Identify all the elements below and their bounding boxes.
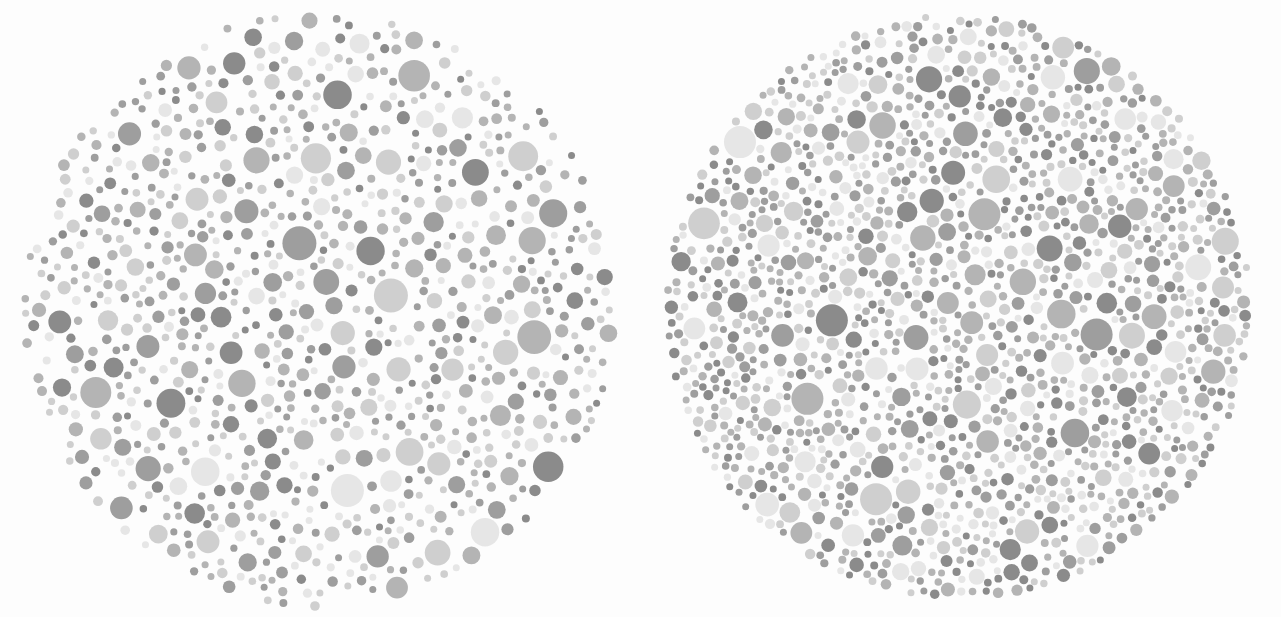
plate-dot [1103, 373, 1111, 381]
plate-dot [804, 169, 811, 176]
plate-dot [1137, 501, 1144, 508]
plate-dot [720, 326, 727, 333]
plate-dot [892, 476, 899, 483]
plate-dot [816, 304, 848, 336]
plate-dot [815, 176, 822, 183]
plate-dot [1188, 366, 1196, 374]
plate-dot [790, 522, 812, 544]
plate-dot [1005, 388, 1016, 399]
plate-dot [1006, 528, 1013, 535]
plate-dot [1225, 374, 1238, 387]
plate-dot [822, 499, 830, 507]
plate-dot [778, 462, 789, 473]
plate-dot [770, 486, 777, 493]
plate-dot [1198, 307, 1205, 314]
plate-dot [829, 282, 836, 289]
plate-dot [1041, 42, 1049, 50]
plate-dot [955, 366, 962, 373]
plate-dot [968, 420, 980, 432]
plate-dot [1009, 516, 1016, 523]
plate-dot [986, 25, 997, 36]
plate-dot [909, 43, 919, 53]
plate-dot [1200, 413, 1207, 420]
plate-dot [726, 158, 733, 165]
plate-dot [751, 294, 759, 302]
plate-dot [925, 101, 935, 111]
plate-dot [1122, 434, 1137, 449]
plate-dot [948, 113, 956, 121]
plate-dot [848, 212, 855, 219]
plate-dot [1190, 225, 1197, 232]
plate-dot [783, 405, 791, 413]
plate-dot [971, 246, 979, 254]
plate-dot [761, 198, 768, 205]
plate-dot [805, 327, 812, 334]
plate-dot [1156, 398, 1163, 405]
plate-dot [913, 22, 922, 31]
plate-dot [1186, 299, 1194, 307]
plate-dot [1149, 394, 1156, 401]
plate-dot [1101, 109, 1108, 116]
plate-dot [754, 121, 773, 140]
plate-dot [1008, 147, 1017, 156]
plate-dot [1092, 385, 1105, 398]
plate-dot [955, 311, 962, 318]
plate-dot [906, 410, 913, 417]
plate-dot [1060, 207, 1069, 216]
plate-dot [1020, 422, 1029, 431]
plate-dot [1090, 351, 1097, 358]
plate-dot [927, 215, 940, 228]
plate-dot [774, 218, 781, 225]
plate-dot [931, 309, 938, 316]
plate-dot [720, 398, 727, 405]
plate-dot [875, 140, 883, 148]
plate-dot [964, 287, 972, 295]
plate-dot [1156, 329, 1168, 341]
plate-dot [1195, 297, 1204, 306]
plate-dot [854, 243, 861, 250]
plate-dot [1076, 535, 1098, 557]
plate-dot [710, 336, 723, 349]
plate-dot [1183, 146, 1193, 156]
plate-dot [1197, 282, 1207, 292]
plate-dot [1037, 236, 1063, 262]
plate-dot [829, 265, 836, 272]
plate-dot [1135, 258, 1142, 265]
plate-dot [1008, 65, 1016, 73]
plate-dot [962, 452, 971, 461]
plate-dot [1239, 310, 1251, 322]
plate-dot [854, 287, 865, 298]
plate-dot [848, 154, 855, 161]
plate-dot [1112, 440, 1121, 449]
plate-dot [1073, 279, 1083, 289]
plate-dot [1000, 539, 1021, 560]
plate-dot [1204, 239, 1211, 246]
plate-dot [717, 246, 724, 253]
plate-dot [988, 43, 995, 50]
plate-dot [962, 152, 969, 159]
plate-dot [906, 130, 913, 137]
plate-dot [1137, 112, 1148, 123]
plate-dot [821, 263, 828, 270]
plate-dot [1041, 517, 1058, 534]
plate-dot [711, 412, 718, 419]
plate-dot [833, 49, 840, 56]
plate-dot [1001, 473, 1013, 485]
plate-dot [795, 148, 802, 155]
plate-dot [1212, 319, 1219, 326]
plate-dot [695, 196, 703, 204]
plate-dot [808, 365, 816, 373]
plate-dot [749, 211, 756, 218]
plate-dot [888, 404, 895, 411]
plate-dot [918, 436, 925, 443]
plate-dot [809, 72, 816, 79]
plate-dot [1105, 532, 1112, 539]
plate-dot [823, 484, 830, 491]
plate-dot [794, 271, 802, 279]
plate-dot [664, 286, 672, 294]
plate-dot [905, 291, 912, 298]
plate-dot [942, 405, 949, 412]
plate-dot [975, 383, 982, 390]
plate-dot [1145, 226, 1152, 233]
plate-dot [1057, 493, 1066, 502]
